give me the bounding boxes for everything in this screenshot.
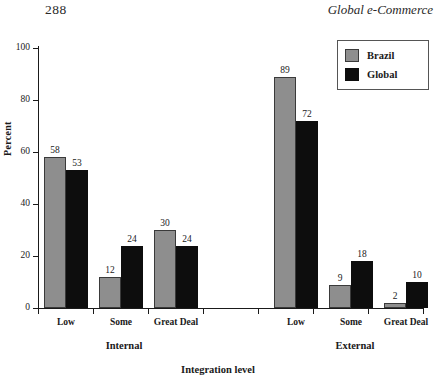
y-tick-label-40: 40 <box>21 198 31 209</box>
plot-area: 0 20 40 60 80 100 Percent 58 <box>0 26 437 350</box>
page-running-head: 288 Global e-Commerce <box>0 0 437 26</box>
legend-label-global: Global <box>367 69 397 80</box>
bar-internal-some-brazil: 12 <box>99 277 121 308</box>
legend-swatch-brazil-icon <box>345 49 359 62</box>
bar-value-external-some-global: 18 <box>357 249 367 260</box>
bar-value-external-low-brazil: 89 <box>280 65 290 76</box>
bar-external-greatdeal-brazil: 2 <box>384 303 406 308</box>
y-tick-80: 80 <box>33 100 39 101</box>
x-label-external-some: Some <box>340 317 362 327</box>
x-tick-2 <box>148 309 149 314</box>
chart-legend: Brazil Global <box>337 40 429 90</box>
y-axis-title: Percent <box>2 121 13 156</box>
x-tick-6 <box>368 309 369 314</box>
x-label-internal-greatdeal: Great Deal <box>154 317 198 327</box>
x-label-external-greatdeal: Great Deal <box>384 317 428 327</box>
x-axis-line <box>38 308 424 309</box>
running-title: Global e-Commerce <box>328 2 433 18</box>
bar-value-internal-greatdeal-global: 24 <box>182 234 192 245</box>
y-tick-label-100: 100 <box>16 42 30 53</box>
x-axis-title: Integration level <box>181 364 255 375</box>
y-tick-100: 100 <box>33 48 39 49</box>
bar-external-some-brazil: 9 <box>329 285 351 308</box>
y-tick-40: 40 <box>33 204 39 205</box>
bar-external-some-global: 18 <box>351 261 373 308</box>
y-tick-label-80: 80 <box>21 94 31 105</box>
x-label-internal-some: Some <box>110 317 132 327</box>
bar-external-low-brazil: 89 <box>274 77 296 308</box>
bar-chart-figure: 0 20 40 60 80 100 Percent 58 <box>0 26 437 350</box>
bar-value-external-greatdeal-brazil: 2 <box>393 291 398 302</box>
bar-value-internal-some-brazil: 12 <box>105 265 115 276</box>
x-tick-0 <box>38 309 39 314</box>
bar-value-internal-greatdeal-brazil: 30 <box>160 218 170 229</box>
x-tick-3 <box>203 309 204 314</box>
legend-entry-brazil: Brazil <box>345 46 422 65</box>
bar-external-low-global: 72 <box>296 121 318 308</box>
group-label-internal: Internal <box>106 340 143 351</box>
y-axis-line <box>38 46 39 309</box>
bar-value-internal-low-global: 53 <box>72 158 82 169</box>
legend-entry-global: Global <box>345 65 422 84</box>
bar-value-external-some-brazil: 9 <box>338 273 343 284</box>
y-tick-label-20: 20 <box>21 250 31 261</box>
legend-swatch-global-icon <box>345 68 359 81</box>
bar-internal-greatdeal-brazil: 30 <box>154 230 176 308</box>
bar-value-internal-low-brazil: 58 <box>50 145 60 156</box>
x-label-internal-low: Low <box>57 317 75 327</box>
x-tick-5 <box>313 309 314 314</box>
x-tick-7 <box>423 309 424 314</box>
x-label-external-low: Low <box>287 317 305 327</box>
bar-external-greatdeal-global: 10 <box>406 282 428 308</box>
bar-value-internal-some-global: 24 <box>127 234 137 245</box>
x-tick-1 <box>93 309 94 314</box>
group-label-external: External <box>335 340 374 351</box>
y-tick-label-60: 60 <box>21 146 31 157</box>
bar-internal-greatdeal-global: 24 <box>176 246 198 308</box>
page-number: 288 <box>45 2 67 18</box>
y-tick-60: 60 <box>33 152 39 153</box>
x-tick-4 <box>258 309 259 314</box>
bar-value-external-low-global: 72 <box>302 109 312 120</box>
y-tick-label-0: 0 <box>25 302 30 313</box>
bar-internal-low-brazil: 58 <box>44 157 66 308</box>
y-tick-20: 20 <box>33 256 39 257</box>
legend-label-brazil: Brazil <box>367 50 394 61</box>
bar-internal-some-global: 24 <box>121 246 143 308</box>
bar-internal-low-global: 53 <box>66 170 88 308</box>
bar-value-external-greatdeal-global: 10 <box>412 270 422 281</box>
